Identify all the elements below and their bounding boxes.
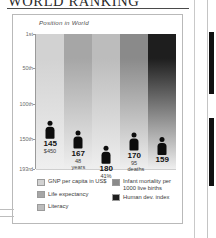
legend-swatch-life-expectancy	[37, 191, 45, 198]
legend-item-label: Life expectancy	[48, 191, 107, 198]
y-axis-tick	[33, 34, 35, 35]
chart-card: Position in World 1st50th100th150th193rd…	[12, 14, 183, 224]
legend-item-label: Literacy	[48, 203, 107, 210]
legend-swatch-literacy	[37, 204, 45, 211]
title-divider	[7, 8, 189, 9]
person-icon	[128, 132, 141, 150]
scrollbar-thumb-upper[interactable]	[209, 32, 214, 94]
legend-item[interactable]: Infant mortality per1000 live births	[112, 178, 182, 191]
bar-sub-label: years	[72, 164, 85, 170]
bar-value-label: 180	[100, 164, 113, 173]
legend-column-left: GNP per capita in US$Life expectancyLite…	[37, 178, 107, 216]
legend-item[interactable]: Life expectancy	[37, 191, 107, 201]
y-axis-tick-label: 1st	[26, 31, 33, 37]
bar-value-label: 170	[128, 150, 141, 159]
legend-item[interactable]: GNP per capita in US$	[37, 178, 107, 188]
person-icon	[156, 137, 169, 155]
y-axis-tick-label: 193rd	[19, 166, 33, 172]
legend-item-label: GNP per capita in US$	[48, 178, 107, 185]
screenshot-root: WORLD RANKING Position in World 1st50th1…	[0, 0, 216, 238]
bar-value-marker: 17095deaths	[128, 132, 141, 171]
bar-value-marker: 18041%	[100, 146, 113, 179]
y-axis-tick-label: 50th	[23, 65, 34, 71]
legend-item-label: 1000 live births	[123, 185, 182, 192]
legend-column-right: Infant mortality per1000 live birthsHuma…	[112, 178, 182, 206]
scrollbar-thumb-lower[interactable]	[209, 118, 214, 186]
legend-swatch-hdi	[112, 194, 120, 201]
legend-swatch-infant-mortality	[112, 179, 120, 186]
person-icon	[100, 146, 113, 164]
bar-value-label: 167	[72, 148, 85, 157]
bar-value-label: 159	[156, 155, 169, 164]
bar-sub-label: $450	[44, 148, 57, 154]
bar-sub-label: deaths	[128, 166, 141, 172]
page-edge-line	[207, 0, 208, 238]
chart-axis-title: Position in World	[39, 19, 89, 26]
bar-value-marker: 145$450	[44, 121, 57, 154]
document-page: WORLD RANKING Position in World 1st50th1…	[0, 0, 195, 238]
person-icon	[72, 130, 85, 148]
bar-value-label: 145	[44, 139, 57, 148]
y-axis-tick	[33, 68, 35, 69]
y-axis-tick	[33, 139, 35, 140]
person-icon	[44, 121, 57, 139]
y-axis-tick-label: 150th	[20, 136, 34, 142]
legend-item[interactable]: Human dev. index	[112, 194, 182, 204]
legend-item[interactable]: Literacy	[37, 203, 107, 213]
legend-item-label: Infant mortality per	[123, 178, 182, 185]
y-axis-tick	[33, 169, 35, 170]
y-axis-tick	[33, 104, 35, 105]
margin-rule-top	[0, 209, 14, 210]
chart-legend: GNP per capita in US$Life expectancyLite…	[37, 178, 179, 218]
bar-value-marker: 159	[156, 137, 169, 164]
margin-rule-bottom	[0, 216, 14, 217]
bar-value-marker: 16748years	[72, 130, 85, 169]
chart-plot-area: 1st50th100th150th193rd145$45016748years1…	[36, 34, 176, 169]
y-axis-tick-label: 100th	[20, 101, 34, 107]
legend-swatch-gnp	[37, 179, 45, 186]
legend-item-label: Human dev. index	[123, 194, 182, 201]
